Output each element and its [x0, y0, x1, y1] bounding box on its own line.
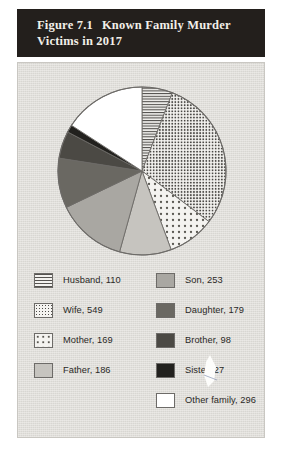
pie-slices [58, 87, 226, 255]
legend-label-other-family: Other family, 296 [185, 393, 256, 408]
figure-title-text: Figure 7.1Known Family Murder Victims in… [37, 17, 253, 49]
figure-title-bar: Figure 7.1Known Family Murder Victims in… [17, 9, 265, 57]
legend-column-left: Husband, 110 Wife, 549 Mother, 169 Fathe… [34, 269, 146, 389]
legend-item-sister: Sister, 27 [156, 359, 268, 389]
legend-swatch-father [34, 363, 53, 378]
pie-chart [56, 85, 228, 257]
legend-label-son: Son, 253 [185, 273, 223, 288]
legend-swatch-husband [34, 273, 53, 288]
figure-7-1: Figure 7.1Known Family Murder Victims in… [0, 0, 282, 454]
legend-item-brother: Brother, 98 [156, 329, 268, 359]
figure-number: Figure 7.1 [37, 17, 93, 33]
legend-swatch-son [156, 273, 175, 288]
legend-swatch-daughter [156, 303, 175, 318]
legend-swatch-other-family [156, 393, 175, 408]
legend-swatch-sister [156, 363, 175, 378]
pie-chart-svg [56, 85, 228, 257]
legend-label-sister: Sister, 27 [185, 363, 224, 378]
legend-label-brother: Brother, 98 [185, 333, 231, 348]
legend-swatch-wife [34, 303, 53, 318]
legend-label-wife: Wife, 549 [63, 303, 103, 318]
legend-label-mother: Mother, 169 [63, 333, 113, 348]
legend-swatch-mother [34, 333, 53, 348]
chart-legend: Husband, 110 Wife, 549 Mother, 169 Fathe… [18, 269, 266, 437]
legend-item-father: Father, 186 [34, 359, 146, 389]
legend-label-daughter: Daughter, 179 [185, 303, 244, 318]
legend-item-other-family: Other family, 296 [156, 389, 268, 419]
legend-item-mother: Mother, 169 [34, 329, 146, 359]
legend-label-father: Father, 186 [63, 363, 111, 378]
legend-item-husband: Husband, 110 [34, 269, 146, 299]
legend-swatch-brother [156, 333, 175, 348]
legend-column-right: Son, 253 Daughter, 179 Brother, 98 Siste… [156, 269, 268, 419]
legend-item-daughter: Daughter, 179 [156, 299, 268, 329]
legend-item-son: Son, 253 [156, 269, 268, 299]
figure-panel: Husband, 110 Wife, 549 Mother, 169 Fathe… [17, 62, 265, 438]
legend-label-husband: Husband, 110 [63, 273, 121, 288]
legend-item-wife: Wife, 549 [34, 299, 146, 329]
